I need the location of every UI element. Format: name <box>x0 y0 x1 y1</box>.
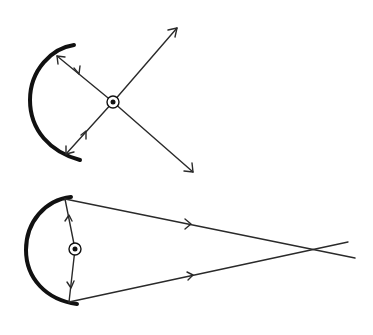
bottom-ray-reflected-lower <box>69 242 348 302</box>
bottom-figure <box>26 197 355 304</box>
top-concave-mirror <box>30 45 80 160</box>
arrow-head-icon <box>57 28 193 172</box>
top-light-source-dot <box>111 100 116 105</box>
top-ray-to-lower-mirror <box>66 102 113 154</box>
optics-diagram <box>0 0 373 335</box>
top-figure <box>30 28 193 172</box>
top-ray-to-upper-mirror <box>57 56 113 102</box>
bottom-ray-to-lower-mirror <box>69 249 75 302</box>
top-ray-out-upper <box>113 28 177 102</box>
bottom-ray-to-upper-mirror <box>65 199 75 249</box>
bottom-light-source-dot <box>73 247 78 252</box>
top-ray-out-lower <box>113 102 193 172</box>
arrow-head-icon <box>65 215 193 288</box>
